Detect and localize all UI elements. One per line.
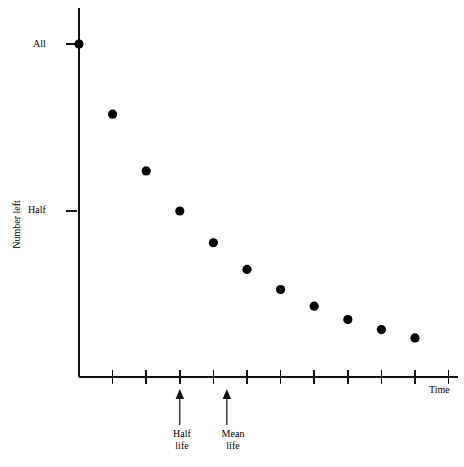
data-point xyxy=(142,166,151,175)
mean-life-annotation-label: Mean life xyxy=(211,428,255,451)
x-axis-title: Time xyxy=(429,384,450,395)
data-point xyxy=(175,206,184,215)
data-point xyxy=(377,325,386,334)
data-points xyxy=(74,39,419,342)
annotation-arrow-head xyxy=(223,389,231,399)
y-axis-ticks xyxy=(66,44,77,211)
data-point xyxy=(410,333,419,342)
chart-axes xyxy=(79,8,458,377)
data-point xyxy=(276,285,285,294)
data-point xyxy=(209,238,218,247)
data-point xyxy=(74,39,83,48)
half-life-label-line1: Half xyxy=(160,428,204,440)
half-life-label-line2: life xyxy=(160,440,204,452)
y-tick-label-half: Half xyxy=(28,204,46,215)
half-life-annotation-label: Half life xyxy=(160,428,204,451)
data-point xyxy=(242,265,251,274)
data-point xyxy=(108,110,117,119)
annotation-arrows xyxy=(176,389,231,425)
y-axis-title: Number left xyxy=(11,190,22,260)
data-point xyxy=(343,315,352,324)
decay-curve-figure: All Half Number left Time Half life Mean… xyxy=(0,0,464,467)
mean-life-label-line1: Mean xyxy=(211,428,255,440)
chart-canvas xyxy=(0,0,464,467)
annotation-arrow-head xyxy=(176,389,184,399)
mean-life-label-line2: life xyxy=(211,440,255,452)
data-point xyxy=(310,302,319,311)
y-tick-label-all: All xyxy=(33,38,46,49)
